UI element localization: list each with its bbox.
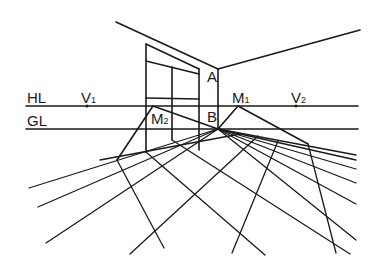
label-v1: V1 (81, 89, 96, 106)
perspective-diagram: HLGLV1V2M1M2AB (0, 0, 380, 275)
label-gl: GL (27, 112, 47, 129)
ceiling-left (116, 22, 218, 69)
label-m2: M2 (151, 110, 169, 127)
floor-line-left-0 (29, 129, 218, 188)
window-frame (146, 44, 199, 152)
m2-left-down (117, 106, 153, 160)
m1-to-b (218, 106, 238, 129)
ceiling-right (218, 30, 360, 69)
floor-line-cross-0 (117, 160, 164, 248)
label-m1: M1 (232, 89, 250, 106)
floor-line-right-5 (218, 129, 356, 240)
floor-grid (29, 129, 356, 255)
label-b: B (207, 108, 217, 125)
floor-line-left-2 (46, 129, 218, 243)
floor-line-right-2 (218, 129, 356, 169)
label-hl: HL (27, 89, 46, 106)
label-a: A (207, 68, 217, 85)
window-transom (146, 98, 199, 99)
floor-line-left-1 (38, 129, 218, 207)
reference-lines (26, 106, 358, 129)
label-v2: V2 (291, 89, 306, 106)
floor-line-cross-1 (146, 152, 265, 255)
floor-line-right-4 (218, 129, 356, 204)
floor-line-cross-6 (100, 134, 240, 160)
floor-line-cross-4 (232, 141, 278, 253)
